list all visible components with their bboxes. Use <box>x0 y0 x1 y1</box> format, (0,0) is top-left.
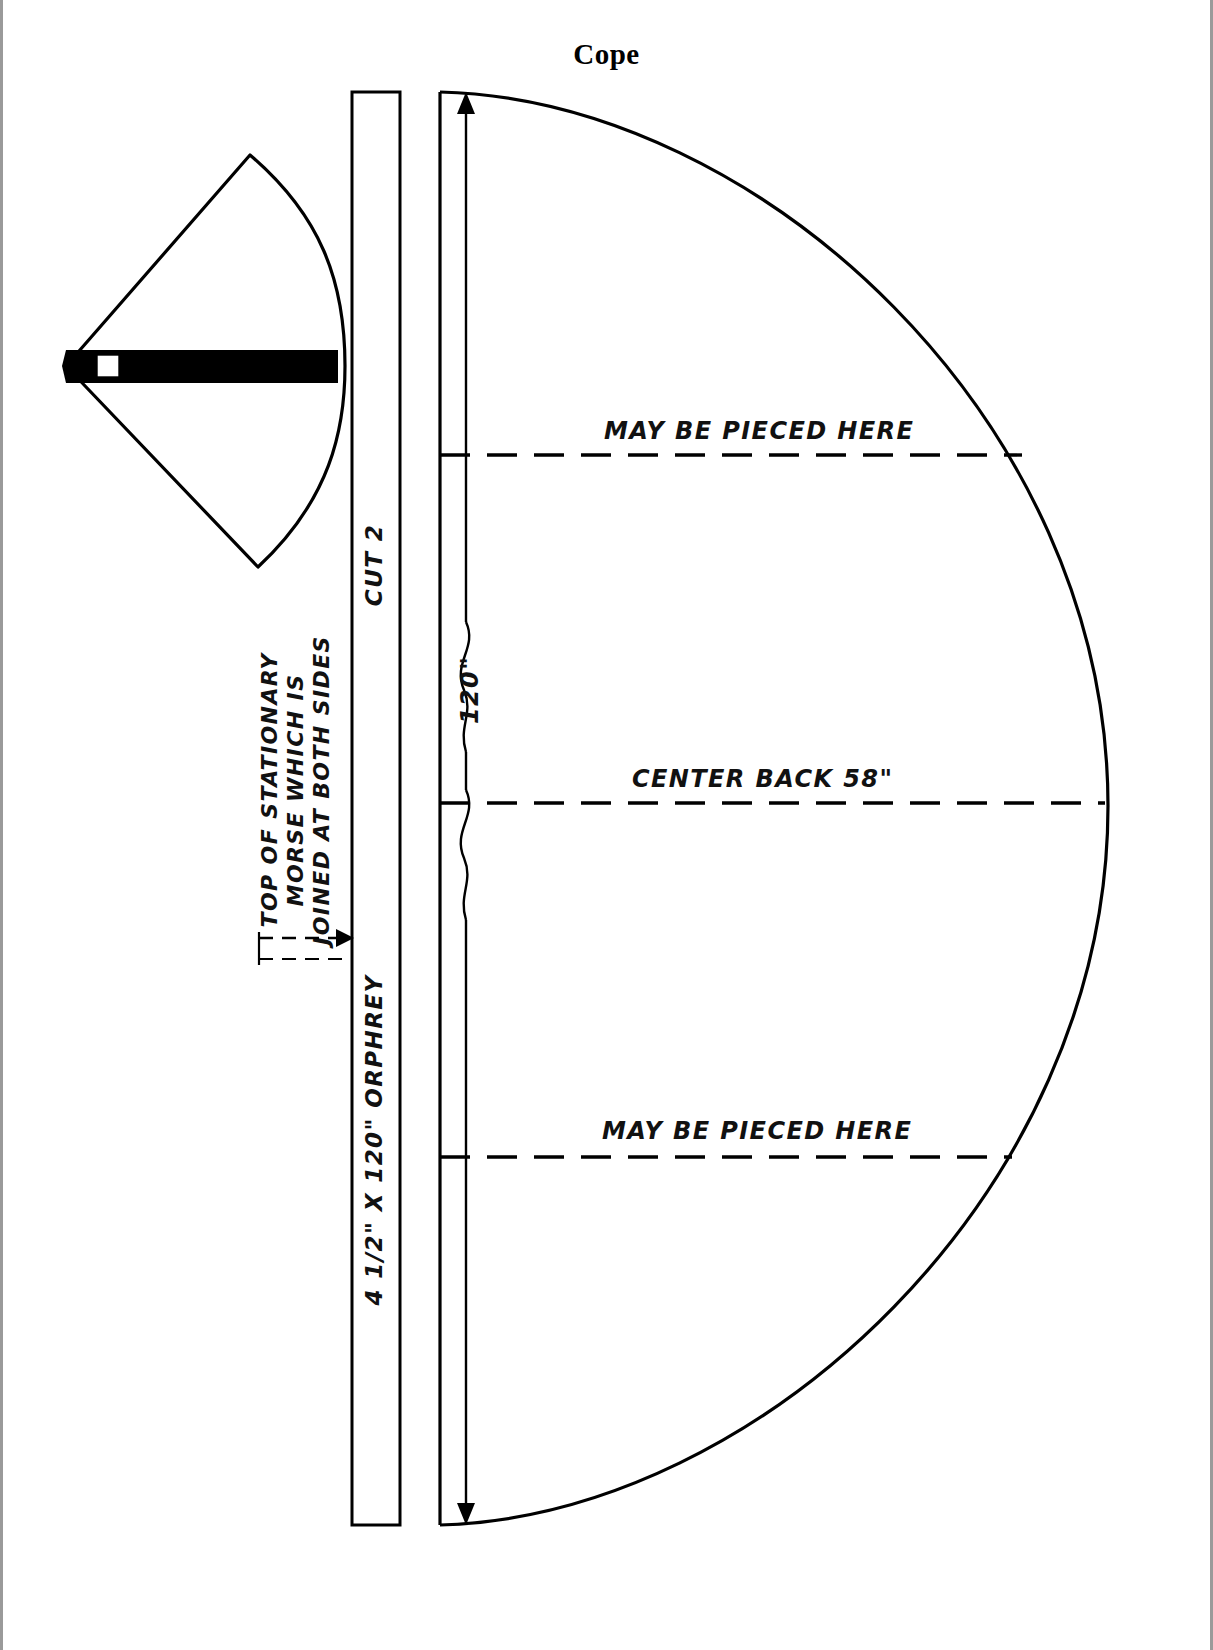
orphrey-cut-label: CUT 2 <box>361 524 387 606</box>
cope-pattern-drawing: CUT 2 4 1/2" X 120" ORPHREY TOP OF STATI… <box>0 0 1213 1650</box>
morse-bar-tip <box>62 350 66 383</box>
piecing-label-bottom: MAY BE PIECED HERE <box>602 1117 912 1145</box>
piecing-line-bottom: MAY BE PIECED HERE <box>440 1117 1012 1157</box>
morse-note-block: TOP OF STATIONARY MORSE WHICH IS JOINED … <box>257 635 354 965</box>
cope-hem-curve <box>440 92 1108 1525</box>
piecing-label-top: MAY BE PIECED HERE <box>604 417 914 445</box>
morse-clasp <box>97 355 119 377</box>
piecing-line-top: MAY BE PIECED HERE <box>440 417 1022 455</box>
height-dimension: 120" <box>456 92 484 1525</box>
center-back-label: CENTER BACK 58" <box>632 765 893 793</box>
morse-note-line-2: MORSE WHICH IS <box>283 674 308 907</box>
hood-piece <box>62 155 345 567</box>
morse-note-line-1: TOP OF STATIONARY <box>257 652 282 928</box>
cope-body-piece <box>440 92 1108 1525</box>
orphrey-size-label: 4 1/2" X 120" ORPHREY <box>361 974 387 1307</box>
orphrey-outline <box>352 92 400 1525</box>
height-dimension-break-squiggle-2 <box>461 790 469 920</box>
pattern-page: Cope CUT 2 4 1/2" X 120" ORPHREY TOP OF … <box>0 0 1213 1650</box>
morse-note-line-3: JOINED AT BOTH SIDES <box>309 635 334 949</box>
height-dimension-label: 120" <box>456 656 484 724</box>
center-back-line: CENTER BACK 58" <box>440 765 1105 803</box>
orphrey-piece: CUT 2 4 1/2" X 120" ORPHREY <box>352 92 400 1525</box>
